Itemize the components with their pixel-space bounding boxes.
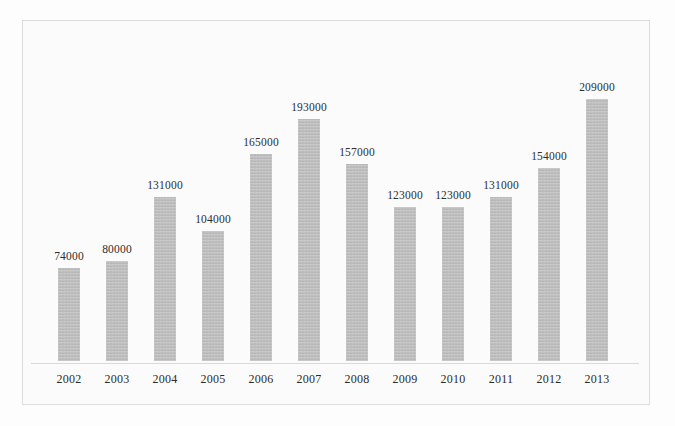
bar-value-label-2006: 165000 (243, 137, 279, 149)
x-tick-2003: 2003 (105, 373, 130, 385)
x-tick-2010: 2010 (441, 373, 466, 385)
x-tick-2006: 2006 (249, 373, 274, 385)
x-tick-2005: 2005 (201, 373, 226, 385)
bar-value-label-2004: 131000 (147, 180, 183, 192)
bar-chart-figure: 7400080000131000104000165000193000157000… (0, 0, 675, 426)
bar-value-label-2007: 193000 (291, 102, 327, 114)
bar-value-label-2003: 80000 (102, 244, 132, 256)
bar-value-label-2012: 154000 (531, 151, 567, 163)
x-tick-2002: 2002 (57, 373, 82, 385)
bar-value-label-2008: 157000 (339, 147, 375, 159)
bar-2010 (442, 207, 464, 361)
bar-2002 (58, 268, 80, 361)
x-tick-2004: 2004 (153, 373, 178, 385)
bar-value-label-2010: 123000 (435, 190, 471, 202)
bar-value-label-2013: 209000 (579, 82, 615, 94)
bar-2007 (298, 119, 320, 361)
bar-2011 (490, 197, 512, 361)
x-tick-2008: 2008 (345, 373, 370, 385)
x-tick-2009: 2009 (393, 373, 418, 385)
bar-2004 (154, 197, 176, 361)
bar-2003 (106, 261, 128, 361)
bar-2009 (394, 207, 416, 361)
x-tick-2012: 2012 (537, 373, 562, 385)
chart-plot-frame: 7400080000131000104000165000193000157000… (22, 20, 650, 405)
bar-2013 (586, 99, 608, 361)
bar-2006 (250, 154, 272, 361)
bar-value-label-2011: 131000 (483, 180, 519, 192)
x-tick-2007: 2007 (297, 373, 322, 385)
chart-plot-area: 7400080000131000104000165000193000157000… (23, 21, 649, 404)
x-tick-2011: 2011 (489, 373, 513, 385)
category-axis-line (31, 363, 639, 364)
bar-value-label-2009: 123000 (387, 190, 423, 202)
bar-2008 (346, 164, 368, 361)
x-tick-2013: 2013 (585, 373, 610, 385)
bar-value-label-2005: 104000 (195, 214, 231, 226)
bar-value-label-2002: 74000 (54, 251, 84, 263)
bar-2005 (202, 231, 224, 361)
bar-2012 (538, 168, 560, 361)
